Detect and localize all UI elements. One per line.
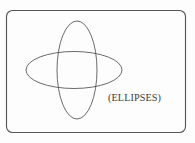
ellipses-caption: (ELLIPSES) — [108, 92, 161, 104]
horizontal-ellipse — [26, 52, 122, 89]
vertical-ellipse — [57, 21, 97, 119]
rounded-rectangle-border — [7, 11, 186, 133]
diagram-canvas: (ELLIPSES) — [0, 0, 195, 143]
figure-container: (ELLIPSES) — [0, 0, 195, 143]
